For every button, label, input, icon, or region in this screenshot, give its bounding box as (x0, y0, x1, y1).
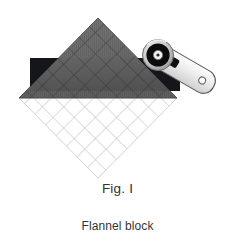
blade-hub-center (156, 53, 159, 56)
figure-number-label: Fig. I (0, 181, 235, 196)
figure-flannel-block: Fig. I Flannel block (0, 0, 235, 241)
figure-title-caption: Flannel block (0, 219, 235, 233)
block-lower-white-half (0, 90, 235, 190)
flannel-block-illustration (0, 0, 235, 190)
